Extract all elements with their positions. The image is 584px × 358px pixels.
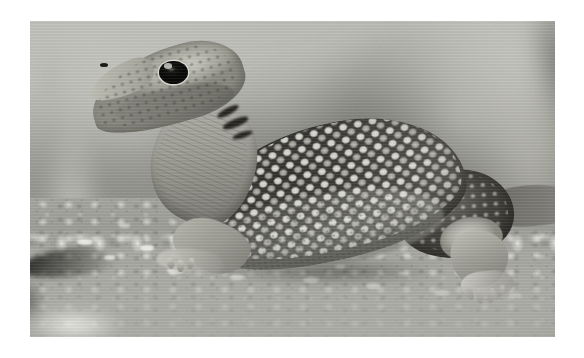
- foreground-blur: [30, 267, 555, 337]
- eye-glint: [164, 63, 172, 68]
- photo-frame: Close-up photograph of a light grey spot…: [0, 0, 584, 358]
- nostril: [100, 63, 108, 68]
- lizard-photograph: Close-up photograph of a light grey spot…: [30, 21, 555, 337]
- eye: [159, 61, 188, 84]
